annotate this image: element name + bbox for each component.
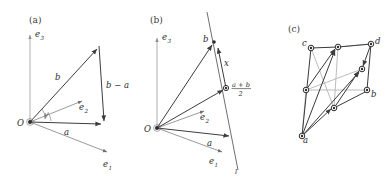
panel-b-label-a: a [207,138,212,148]
panel-c-node-right-mid-dot [361,68,363,70]
panel-c-dark-edge [334,71,359,108]
panel-a-label-e3-subscript: 3 [41,35,45,41]
panel-b-label-e3-subscript: 3 [168,38,172,44]
panel-b-label-x: x [224,58,229,68]
panel-c-node-c-dot [310,47,312,49]
panel-b-label-e2-subscript: 2 [205,118,210,124]
panel-a-origin-node [28,120,32,124]
figure-canvas: (a) e 3 e 1 e 2 a b b − a γ [0,0,391,180]
panel-b-label-e1: e [209,156,214,166]
panel-a-label-e2-subscript: 2 [84,108,89,114]
panel-c-node-d-dot [370,43,372,45]
panel-c-dark-edge [311,47,338,48]
panel-b-midpoint-numerator: a + b [232,81,250,89]
panel-c-node-top-mid-dot [337,46,339,48]
panel-b-origin-node [155,126,159,130]
panel-b-label: (b) [150,15,163,25]
panel-c-label: (c) [288,24,300,34]
panel-c: (c) [288,24,381,145]
panel-c-node-b-dot [366,89,368,91]
panel-a-vector-e2 [30,101,82,122]
panel-a-label-a: a [64,127,69,137]
panel-b-midpoint-denominator: 2 [238,90,243,98]
panel-c-grey-edges [302,44,371,136]
panel-a-label-b-minus-a: b − a [106,80,129,90]
panel-a-label: (a) [29,15,41,25]
panel-c-label-b: b [371,89,376,99]
panel-c-dark-edge [302,72,359,136]
panel-c-label-c: c [302,38,307,48]
panel-b-label-line: l [235,168,237,176]
panel-b-label-b: b [203,34,208,44]
panel-a-label-e1-subscript: 1 [109,165,113,171]
panel-a-vector-a [30,122,101,124]
panel-c-label-a: a [303,135,308,145]
panel-b-label-e1-subscript: 1 [215,162,219,168]
panel-c-label-d: d [375,36,381,46]
panel-c-node-left-mid-dot [305,89,307,91]
panel-b-vector-midpoint [157,90,223,128]
panel-a-label-e3: e [35,29,40,39]
diagram-svg: (a) e 3 e 1 e 2 a b b − a γ [0,0,391,180]
panel-c-dark-edge [338,44,371,47]
panel-b-vector-x [218,48,226,88]
panel-c-dark-edge [302,109,331,136]
panel-b-label-e2: e [200,112,205,122]
panel-a-label-e2: e [79,102,84,112]
panel-b-node-b [212,40,216,44]
panel-a: (a) e 3 e 1 e 2 a b b − a γ [17,15,129,171]
panel-a-vector-b-minus-a [99,46,104,121]
panel-a-label-b: b [55,72,60,82]
panel-b-label-origin: O [144,124,151,134]
panel-a-label-origin: O [17,118,24,128]
panel-b: (b) l e 3 e 1 e 2 a b [144,12,251,176]
panel-b-midpoint-dot [225,87,227,89]
panel-a-angle-label: γ [44,111,48,119]
panel-c-node-bottom-mid-dot [333,107,335,109]
panel-a-label-e1: e [103,159,108,169]
panel-b-label-e3: e [162,32,167,42]
panel-b-vector-e2 [157,111,204,128]
